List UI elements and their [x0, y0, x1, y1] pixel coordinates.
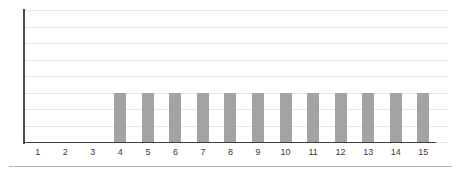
bar[interactable] — [252, 93, 264, 143]
x-axis-tick-label: 7 — [200, 146, 205, 159]
bar-slot — [244, 10, 272, 142]
bars-layer — [24, 10, 447, 142]
bar-slot — [134, 10, 162, 142]
bar-slot — [409, 10, 437, 142]
x-axis-tick-label: 14 — [391, 146, 401, 159]
x-axis-tick-label: 6 — [173, 146, 178, 159]
bar[interactable] — [114, 93, 126, 143]
bar-slot — [272, 10, 300, 142]
bar[interactable] — [307, 93, 319, 143]
bar[interactable] — [280, 93, 292, 143]
bar-slot — [217, 10, 245, 142]
x-axis-line — [23, 142, 436, 143]
bar[interactable] — [197, 93, 209, 143]
bar-slot — [327, 10, 355, 142]
bar-slot — [299, 10, 327, 142]
bar[interactable] — [390, 93, 402, 143]
bar-slot — [382, 10, 410, 142]
x-axis-tick-label: 9 — [256, 146, 261, 159]
x-axis-tick-label: 2 — [63, 146, 68, 159]
x-axis-tick-label: 15 — [418, 146, 428, 159]
bar[interactable] — [224, 93, 236, 143]
x-axis-tick-label: 4 — [118, 146, 123, 159]
bar-chart-figure: 123456789101112131415 — [0, 0, 461, 173]
bar[interactable] — [335, 93, 347, 143]
bottom-divider — [9, 166, 452, 167]
bar[interactable] — [417, 93, 429, 143]
x-axis-tick-label: 11 — [308, 146, 317, 159]
x-axis-tick-label: 3 — [90, 146, 95, 159]
x-axis-tick-label: 12 — [336, 146, 346, 159]
x-axis-tick-label: 13 — [363, 146, 373, 159]
x-axis-tick-label: 8 — [228, 146, 233, 159]
bar-slot — [354, 10, 382, 142]
x-axis-tick-label: 10 — [281, 146, 291, 159]
bar[interactable] — [362, 93, 374, 143]
x-axis-tick-label: 1 — [35, 146, 40, 159]
bar[interactable] — [142, 93, 154, 143]
bar-slot — [107, 10, 135, 142]
bar[interactable] — [169, 93, 181, 143]
x-axis-tick-label: 5 — [145, 146, 150, 159]
bar-slot — [162, 10, 190, 142]
x-axis-tick-labels: 123456789101112131415 — [24, 146, 447, 160]
bar-slot — [189, 10, 217, 142]
